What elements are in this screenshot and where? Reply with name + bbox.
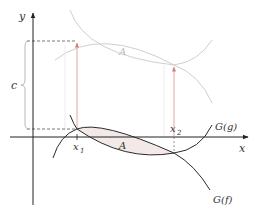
area-label-upper: A [118, 46, 126, 57]
curve-g-label: G(g) [215, 121, 237, 132]
area-label-lower: A [118, 140, 126, 151]
shifted-curve-g-right [174, 40, 212, 65]
brace-c [21, 41, 29, 129]
shift-label-c: c [11, 79, 17, 92]
shifted-curve-g [55, 44, 174, 65]
y-axis-label: y [18, 10, 26, 23]
shifted-curve-f [70, 10, 212, 103]
x-axis-label: x [239, 142, 246, 155]
area-between-curves-diagram: y x c x 1 x 2 A A G(g) G(f) [0, 0, 257, 212]
x1-label: x [73, 141, 79, 152]
curve-f-label: G(f) [213, 194, 233, 205]
x1-subscript: 1 [80, 147, 84, 155]
x2-label: x [170, 123, 176, 134]
x2-subscript: 2 [176, 129, 182, 137]
